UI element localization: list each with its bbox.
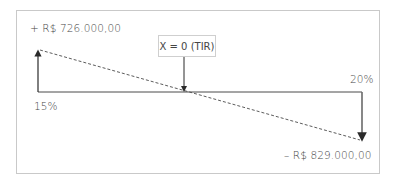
interpolation-dashed-line [40, 50, 360, 140]
left-rate-label: 15% [34, 100, 58, 112]
tir-label: X = 0 (TIR) [160, 41, 215, 52]
right-rate-label: 20% [350, 73, 374, 85]
bottom-value-label: – R$ 829.000,00 [284, 149, 372, 161]
tir-label-box: X = 0 (TIR) [158, 35, 216, 57]
top-value-label: + R$ 726.000,00 [30, 22, 121, 34]
